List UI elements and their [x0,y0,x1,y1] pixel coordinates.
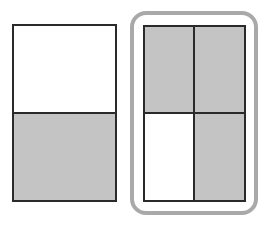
left-cell-bottom-shaded [14,114,115,200]
right-cell-bottom-left-unshaded [145,114,195,200]
right-cell-top-left-shaded [145,27,195,114]
left-shape-halves[interactable] [12,24,117,202]
right-cell-bottom-right-shaded [195,114,244,200]
right-cell-top-right-shaded [195,27,244,114]
right-shape-quarters[interactable] [143,25,246,202]
left-cell-top-unshaded [14,26,115,114]
